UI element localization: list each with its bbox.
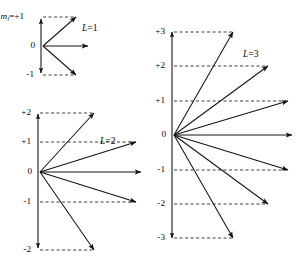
panel-l1-ml-label: ml=+1 (1, 11, 25, 22)
panel-l3-group-label-value: =3 (248, 48, 258, 59)
panel-l2-tick-label-+1: +1 (21, 136, 31, 146)
vector-model-figure: +10-1L=1ml=+1+2+10-1-2L=2+3+2+10-1-2-3L=… (0, 0, 300, 268)
ml-label-suffix: =+1 (9, 11, 24, 21)
panel-l3-tick-label--2: -2 (157, 198, 165, 208)
panel-l3-group-label: L=3 (242, 48, 259, 59)
panel-l3-vector-m-2 (174, 135, 268, 204)
panel-l2-tick-label-0: 0 (27, 166, 32, 176)
panel-l1-group-label: L=1 (81, 22, 98, 33)
panel-l2-tick-label--2: -2 (23, 244, 31, 254)
space-quantization-diagram: +10-1L=1ml=+1+2+10-1-2L=2+3+2+10-1-2-3L=… (0, 0, 300, 268)
panel-l3-tick-label-+2: +2 (155, 60, 165, 70)
panel-l2-group-label: L=2 (99, 135, 116, 146)
panel-l2-group-label-value: =2 (105, 135, 115, 146)
panel-l1-vector-m1 (43, 17, 76, 46)
labels-layer: +10-1L=1ml=+1+2+10-1-2L=2+3+2+10-1-2-3L=… (1, 11, 259, 254)
panel-l3-vector-m2 (174, 66, 268, 135)
panel-l2-vector-m-1 (40, 172, 136, 202)
panel-l2-vector-m-2 (40, 172, 94, 250)
panel-l1-group-label-value: =1 (87, 22, 97, 33)
panel-l3-tick-label-0: 0 (161, 129, 166, 139)
panel-l3-tick-label-+1: +1 (155, 95, 165, 105)
panel-l1-tick-label--1: -1 (26, 69, 34, 79)
panel-l1-vector-m-1 (43, 46, 76, 75)
panel-l1-tick-label-0: 0 (30, 40, 35, 50)
panel-l2-tick-label--1: -1 (23, 196, 31, 206)
panel-l2 (38, 113, 141, 250)
panel-l2-tick-label-+2: +2 (21, 107, 31, 117)
panel-l3-tick-label--3: -3 (157, 232, 165, 242)
panel-l3 (172, 32, 292, 238)
panel-l3-tick-label-+3: +3 (155, 26, 165, 36)
panel-l1 (41, 17, 88, 75)
panel-l3-tick-label--1: -1 (157, 164, 165, 174)
